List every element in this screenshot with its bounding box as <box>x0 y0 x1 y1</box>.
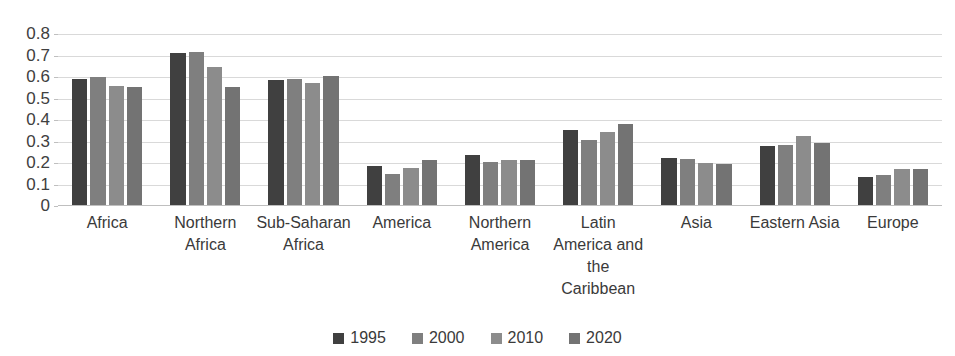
legend-item-label: 2010 <box>508 330 544 346</box>
y-axis-tick-label: 0.6 <box>0 68 50 85</box>
bar-group-bars <box>451 34 549 206</box>
bar-1995-northern-africa[interactable] <box>170 53 185 206</box>
bar-2010-northern-africa[interactable] <box>207 67 222 206</box>
bar-group-bars <box>549 34 647 206</box>
x-axis-category-label: Northern Africa <box>156 208 254 320</box>
bar-2020-northern-america[interactable] <box>520 160 535 206</box>
bar-1995-africa[interactable] <box>72 79 87 206</box>
bar-2000-sub-saharan-africa[interactable] <box>287 79 302 206</box>
bar-2010-latin-america-and-the-caribbean[interactable] <box>600 132 615 206</box>
x-axis-category-label: Europe <box>844 208 942 320</box>
y-axis: 0.80.70.60.50.40.30.20.10 <box>0 34 50 206</box>
bar-group-bars <box>353 34 451 206</box>
bar-group <box>844 34 942 206</box>
y-axis-tick-label: 0.4 <box>0 111 50 128</box>
x-axis-category-label: Eastern Asia <box>746 208 844 320</box>
bar-group <box>156 34 254 206</box>
y-axis-tick-label: 0.3 <box>0 133 50 150</box>
bar-2010-africa[interactable] <box>109 86 124 206</box>
y-axis-tick-mark <box>54 206 58 207</box>
bar-group <box>254 34 352 206</box>
bar-2020-latin-america-and-the-caribbean[interactable] <box>618 124 633 206</box>
x-axis-category-label: Africa <box>58 208 156 320</box>
bar-group <box>353 34 451 206</box>
bar-group-bars <box>746 34 844 206</box>
x-axis-category-label: Latin America and the Caribbean <box>549 208 647 320</box>
bar-group-bars <box>156 34 254 206</box>
bar-1995-sub-saharan-africa[interactable] <box>268 80 283 206</box>
legend-item-label: 2020 <box>586 330 622 346</box>
bar-2000-africa[interactable] <box>90 77 105 206</box>
bar-2000-latin-america-and-the-caribbean[interactable] <box>581 140 596 206</box>
x-axis-line <box>58 205 942 206</box>
bar-group <box>451 34 549 206</box>
legend-swatch-icon <box>569 333 580 344</box>
legend-item-1995[interactable]: 1995 <box>333 330 386 346</box>
bar-2020-africa[interactable] <box>127 87 142 206</box>
bar-2000-asia[interactable] <box>680 159 695 206</box>
x-axis-category-label: America <box>353 208 451 320</box>
y-axis-tick-label: 0 <box>0 197 50 214</box>
bar-2010-asia[interactable] <box>698 163 713 206</box>
legend-swatch-icon <box>412 333 423 344</box>
legend-item-label: 2000 <box>429 330 465 346</box>
bar-group <box>58 34 156 206</box>
bar-2010-america[interactable] <box>403 168 418 206</box>
bar-1995-america[interactable] <box>367 166 382 206</box>
bar-2020-europe[interactable] <box>913 169 928 206</box>
bar-1995-asia[interactable] <box>661 158 676 206</box>
bar-2020-northern-africa[interactable] <box>225 87 240 206</box>
y-axis-tick-label: 0.8 <box>0 25 50 42</box>
bar-2020-asia[interactable] <box>716 164 731 206</box>
grouped-bar-chart: 0.80.70.60.50.40.30.20.10 AfricaNorthern… <box>0 0 955 356</box>
y-axis-tick-label: 0.5 <box>0 90 50 107</box>
bar-group <box>549 34 647 206</box>
y-axis-tick-label: 0.7 <box>0 47 50 64</box>
bar-1995-northern-america[interactable] <box>465 155 480 206</box>
bar-1995-eastern-asia[interactable] <box>760 146 775 206</box>
bar-group-bars <box>647 34 745 206</box>
bar-2000-europe[interactable] <box>876 175 891 206</box>
bar-group-bars <box>58 34 156 206</box>
bar-group-bars <box>844 34 942 206</box>
x-axis-category-label: Northern America <box>451 208 549 320</box>
bar-2020-eastern-asia[interactable] <box>814 143 829 206</box>
bar-2000-america[interactable] <box>385 174 400 206</box>
legend-item-2010[interactable]: 2010 <box>491 330 544 346</box>
legend-item-label: 1995 <box>350 330 386 346</box>
bar-2010-northern-america[interactable] <box>501 160 516 206</box>
x-axis-category-label: Sub-Saharan Africa <box>254 208 352 320</box>
x-axis-category-labels: AfricaNorthern AfricaSub-Saharan AfricaA… <box>58 208 942 320</box>
bar-groups <box>58 34 942 206</box>
bar-2010-sub-saharan-africa[interactable] <box>305 83 320 206</box>
bar-1995-latin-america-and-the-caribbean[interactable] <box>563 130 578 206</box>
legend-swatch-icon <box>333 333 344 344</box>
legend-item-2020[interactable]: 2020 <box>569 330 622 346</box>
legend: 1995200020102020 <box>0 330 955 346</box>
bar-2020-sub-saharan-africa[interactable] <box>323 76 338 206</box>
bar-2000-eastern-asia[interactable] <box>778 145 793 206</box>
bar-group <box>647 34 745 206</box>
plot-area <box>58 34 942 206</box>
bar-2000-northern-america[interactable] <box>483 162 498 206</box>
y-axis-tick-label: 0.1 <box>0 176 50 193</box>
y-axis-tick-label: 0.2 <box>0 154 50 171</box>
legend-item-2000[interactable]: 2000 <box>412 330 465 346</box>
bar-1995-europe[interactable] <box>858 177 873 206</box>
bar-group-bars <box>254 34 352 206</box>
bar-group <box>746 34 844 206</box>
legend-swatch-icon <box>491 333 502 344</box>
bar-2010-eastern-asia[interactable] <box>796 136 811 206</box>
bar-2010-europe[interactable] <box>894 169 909 206</box>
bar-2020-america[interactable] <box>422 160 437 206</box>
x-axis-category-label: Asia <box>647 208 745 320</box>
bar-2000-northern-africa[interactable] <box>189 52 204 206</box>
